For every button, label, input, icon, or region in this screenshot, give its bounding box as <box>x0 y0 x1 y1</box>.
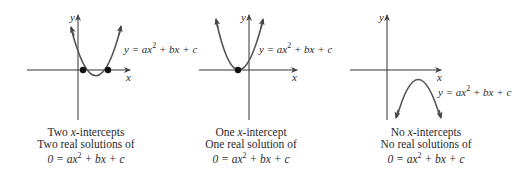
y-axis-label: y <box>379 11 384 23</box>
x-intercept-point <box>80 67 86 73</box>
x-intercept-point <box>105 67 111 73</box>
equation-label: y = ax2 + bx + c <box>124 41 197 55</box>
caption-no-intercepts: No x-intercepts No real solutions of 0 =… <box>346 126 506 165</box>
x-axis-label: x <box>292 71 297 83</box>
x-intercept-point <box>235 67 241 73</box>
y-axis-label: y <box>241 11 246 23</box>
equation-label: y = ax2 + bx + c <box>438 84 511 98</box>
equation-label: y = ax2 + bx + c <box>259 41 332 55</box>
caption-one-intercept: One x-intercept One real solution of 0 =… <box>171 126 331 165</box>
parabola-curve <box>216 20 263 70</box>
x-axis-label: x <box>126 71 131 83</box>
x-axis-label: x <box>437 71 442 83</box>
panel-two-intercepts-graph <box>27 15 130 120</box>
panel-one-intercept-graph <box>199 15 297 120</box>
y-axis-label: y <box>70 11 75 23</box>
caption-two-intercepts: Two x-intercepts Two real solutions of 0… <box>6 126 166 165</box>
parabola-curve <box>397 80 440 118</box>
panel-no-intercepts-graph <box>350 15 441 120</box>
